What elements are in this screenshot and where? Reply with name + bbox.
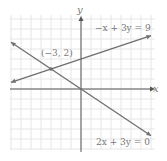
line2-equation-label: 2x + 3y = 0 — [96, 138, 150, 147]
intersection-point-label: (−3, 2) — [41, 49, 73, 58]
grid — [10, 15, 155, 150]
x-axis-label: x — [153, 84, 159, 94]
axes — [10, 16, 155, 152]
line1-equation-label: −x + 3y = 9 — [95, 24, 151, 33]
intersection-point — [49, 67, 53, 71]
y-axis-label: y — [77, 5, 83, 15]
